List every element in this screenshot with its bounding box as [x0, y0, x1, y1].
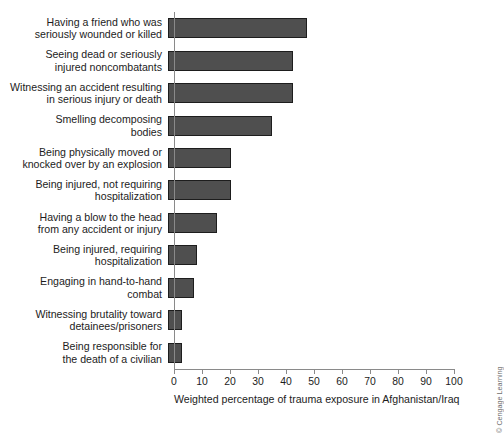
x-tick-mark — [202, 369, 203, 374]
copyright-credit: © Cengage Learning — [495, 366, 504, 432]
bar — [168, 83, 293, 103]
bar — [168, 116, 272, 136]
x-tick-label: 70 — [364, 376, 376, 387]
x-tick-label: 80 — [392, 376, 404, 387]
x-tick-mark — [426, 369, 427, 374]
bar-row: Witnessing brutality toward detainees/pr… — [0, 304, 497, 336]
bar-track — [168, 12, 497, 44]
bar-row: Witnessing an accident resulting in seri… — [0, 77, 497, 109]
x-tick-mark — [314, 369, 315, 374]
bar-track — [168, 44, 497, 76]
x-axis-title: Weighted percentage of trauma exposure i… — [174, 393, 455, 405]
x-tick-mark — [342, 369, 343, 374]
x-tick-label: 0 — [171, 376, 177, 387]
x-tick-mark — [230, 369, 231, 374]
x-tick-label: 60 — [336, 376, 348, 387]
bar — [168, 180, 231, 200]
x-tick-mark — [454, 369, 455, 374]
bar — [168, 310, 182, 330]
bar-track — [168, 174, 497, 206]
y-axis-line — [174, 12, 175, 369]
bar-row: Having a friend who was seriously wounde… — [0, 12, 497, 44]
bar-row: Seeing dead or seriously injured noncomb… — [0, 44, 497, 76]
x-tick-label: 30 — [252, 376, 264, 387]
x-tick-label: 100 — [445, 376, 462, 387]
bar-track — [168, 207, 497, 239]
bar-row: Being physically moved or knocked over b… — [0, 142, 497, 174]
bar-track — [168, 304, 497, 336]
bar — [168, 278, 194, 298]
bar-track — [168, 142, 497, 174]
bar-category-label: Seeing dead or seriously injured noncomb… — [0, 48, 168, 73]
bar-category-label: Being injured, requiring hospitalization — [0, 243, 168, 268]
bar — [168, 245, 197, 265]
bar-category-label: Having a friend who was seriously wounde… — [0, 16, 168, 41]
bar-category-label: Witnessing brutality toward detainees/pr… — [0, 308, 168, 333]
x-tick-label: 10 — [196, 376, 208, 387]
x-tick-label: 50 — [308, 376, 320, 387]
x-tick-mark — [258, 369, 259, 374]
bar — [168, 18, 307, 38]
x-tick-mark — [398, 369, 399, 374]
bar-rows: Having a friend who was seriously wounde… — [0, 0, 497, 357]
x-tick-mark — [174, 369, 175, 374]
bar-category-label: Being injured, not requiring hospitaliza… — [0, 178, 168, 203]
bar-category-label: Smelling decomposing bodies — [0, 113, 168, 138]
bar-row: Being injured, requiring hospitalization — [0, 239, 497, 271]
bar-track — [168, 239, 497, 271]
bar-row: Engaging in hand-to-hand combat — [0, 272, 497, 304]
x-tick-label: 90 — [420, 376, 432, 387]
bar-row: Being responsible for the death of a civ… — [0, 337, 497, 369]
bar — [168, 213, 217, 233]
bar-category-label: Witnessing an accident resulting in seri… — [0, 81, 168, 106]
bar-row: Smelling decomposing bodies — [0, 109, 497, 141]
x-tick-mark — [370, 369, 371, 374]
bar-row: Having a blow to the head from any accid… — [0, 207, 497, 239]
x-tick-label: 20 — [224, 376, 236, 387]
bar-track — [168, 272, 497, 304]
bar-row: Being injured, not requiring hospitaliza… — [0, 174, 497, 206]
bar-track — [168, 337, 497, 369]
bar-track — [168, 109, 497, 141]
bar-category-label: Having a blow to the head from any accid… — [0, 211, 168, 236]
bar — [168, 343, 182, 363]
x-tick-label: 40 — [280, 376, 292, 387]
bar — [168, 51, 293, 71]
bar-track — [168, 77, 497, 109]
bar-category-label: Engaging in hand-to-hand combat — [0, 275, 168, 300]
bar — [168, 148, 231, 168]
x-tick-mark — [286, 369, 287, 374]
bar-category-label: Being responsible for the death of a civ… — [0, 340, 168, 365]
bar-category-label: Being physically moved or knocked over b… — [0, 146, 168, 171]
